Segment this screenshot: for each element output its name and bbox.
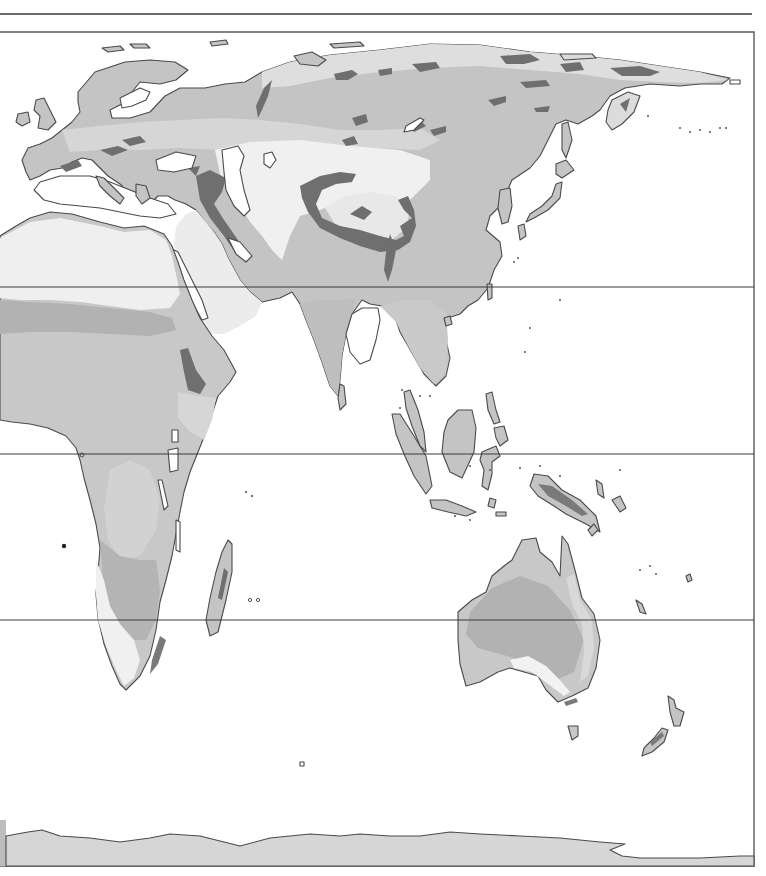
left-edge-shadow <box>0 820 6 866</box>
lake-victoria <box>168 448 178 472</box>
lake-malawi <box>176 520 180 552</box>
java <box>430 500 476 516</box>
korea <box>498 188 512 224</box>
map-canvas <box>0 0 766 876</box>
island-dot <box>62 544 66 548</box>
southeast-asia-islands <box>392 390 626 536</box>
sulawesi <box>480 446 500 490</box>
borneo <box>442 410 476 478</box>
hainan <box>444 316 452 326</box>
hokkaido <box>556 160 574 178</box>
madagascar <box>206 540 232 636</box>
bay-of-bengal <box>346 308 380 364</box>
taiwan <box>487 284 492 300</box>
honshu <box>526 182 562 222</box>
philippines <box>486 392 500 424</box>
tasmania <box>568 726 578 740</box>
great-britain <box>34 98 56 130</box>
ireland <box>16 112 30 126</box>
antarctica <box>6 830 754 866</box>
world-zone-map <box>0 0 766 876</box>
new-zealand-north <box>668 696 684 726</box>
australia <box>300 536 692 766</box>
sri-lanka <box>338 384 346 410</box>
sakhalin <box>562 122 572 158</box>
